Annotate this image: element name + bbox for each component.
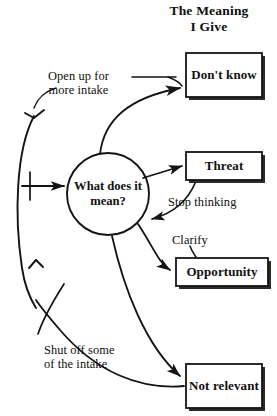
box-label-not-relevant: Not relevant <box>186 364 262 408</box>
box-label-threat: Threat <box>186 152 262 180</box>
edge-center-to-notrelevant <box>112 236 180 376</box>
annotation-open-up: Open up for more intake <box>48 70 109 98</box>
box-label-dont-know: Don't know <box>186 53 262 97</box>
edge-center-to-dontknow <box>100 88 180 154</box>
page-title: The Meaning I Give <box>143 3 275 35</box>
annotation-shut-off: Shut off some of the intake <box>44 344 115 372</box>
diagram-page: The Meaning I Give What does it mean? Do… <box>0 0 277 416</box>
box-label-opportunity: Opportunity <box>176 258 268 286</box>
annotation-stop-thinking: Stop thinking <box>168 196 236 210</box>
intake-arc-path <box>18 116 36 308</box>
center-question-label: What does it mean? <box>66 155 150 233</box>
annotation-clarify: Clarify <box>172 234 208 248</box>
